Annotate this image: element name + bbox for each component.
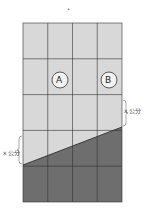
region-b-label: B [105, 75, 111, 85]
figure: • A B x 公分 x 公分 [0, 0, 148, 210]
left-dimension-label: x 公分 [3, 149, 20, 156]
grid-diagram [0, 0, 148, 210]
right-dimension-label: x 公分 [124, 107, 141, 114]
region-a-label: A [56, 75, 62, 85]
